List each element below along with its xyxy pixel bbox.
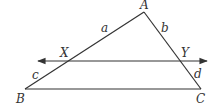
label-B: B (15, 92, 25, 106)
segment-label-b: b (161, 21, 169, 35)
label-C: C (196, 92, 205, 106)
side-ac (144, 12, 201, 89)
triangle-diagram: A B C X Y a b c d (0, 0, 218, 110)
segment-label-c: c (32, 68, 39, 82)
label-A: A (139, 0, 149, 12)
segment-label-a: a (101, 21, 108, 35)
label-Y: Y (181, 46, 190, 60)
segment-label-d: d (194, 67, 202, 81)
side-ab (25, 12, 144, 89)
label-X: X (59, 46, 69, 60)
